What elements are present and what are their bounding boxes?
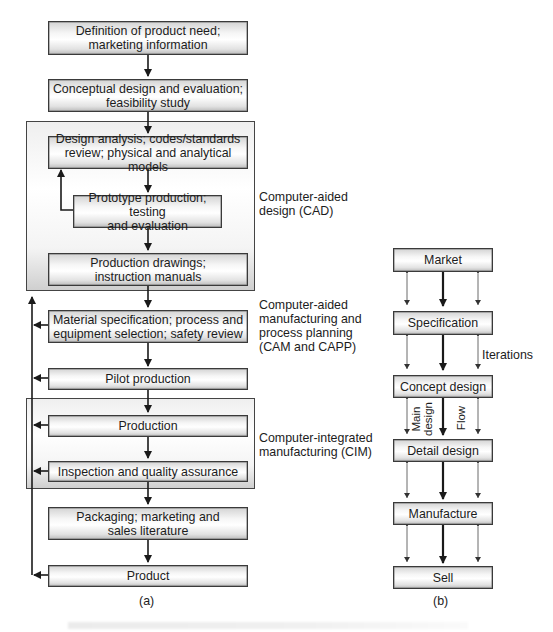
box-text: Production xyxy=(118,419,177,433)
box-text: Definition of product need; xyxy=(76,24,221,38)
box-manufacture: Manufacture xyxy=(393,502,493,525)
design-process-figure: Definition of product need;marketing inf… xyxy=(0,0,553,632)
label-line: Computer-integrated xyxy=(259,431,373,445)
main-design-label: Main design xyxy=(410,401,434,437)
box-specification: Specification xyxy=(393,311,493,335)
cropped-caption xyxy=(68,622,468,629)
box-text: Inspection and quality assurance xyxy=(58,465,238,479)
box-text: Specification xyxy=(408,316,478,330)
box-text: Conceptual design and evaluation; xyxy=(53,82,243,96)
cim-label: Computer-integrated manufacturing (CIM) xyxy=(259,431,373,459)
box-text: sales literature xyxy=(76,524,219,538)
label-line: Computer-aided xyxy=(259,298,362,312)
box-prototype: Prototype production; testingand evaluat… xyxy=(73,195,222,228)
box-text: instruction manuals xyxy=(90,270,206,284)
box-text: Production drawings; xyxy=(90,256,206,270)
label-line: design xyxy=(422,401,434,437)
box-text: equipment selection; safety review xyxy=(53,327,243,341)
box-sell: Sell xyxy=(393,566,493,589)
box-text: marketing information xyxy=(76,38,221,52)
box-pilot-production: Pilot production xyxy=(48,368,248,390)
cam-capp-label: Computer-aided manufacturing and process… xyxy=(259,298,362,354)
label-line: manufacturing and xyxy=(259,312,362,326)
box-material-specification: Material specification; process andequip… xyxy=(48,310,248,343)
box-packaging: Packaging; marketing andsales literature xyxy=(48,507,248,540)
box-text: Pilot production xyxy=(105,372,190,386)
subfigure-label-b: (b) xyxy=(433,594,448,608)
label-line: Computer-aided xyxy=(259,190,348,204)
label-line: (CAM and CAPP) xyxy=(259,340,362,354)
label-line: Main xyxy=(410,401,422,437)
label-line: design (CAD) xyxy=(259,204,348,218)
flow-label: Flow xyxy=(455,403,467,433)
iterations-label: Iterations xyxy=(482,348,533,362)
label-line: process planning xyxy=(259,326,362,340)
box-text: Packaging; marketing and xyxy=(76,510,219,524)
box-text: Sell xyxy=(433,571,454,585)
box-concept-design: Concept design xyxy=(393,375,493,398)
box-production-drawings: Production drawings;instruction manuals xyxy=(48,253,248,286)
box-conceptual-design: Conceptual design and evaluation;feasibi… xyxy=(48,79,248,112)
box-text: review; physical and analytical models xyxy=(49,146,247,174)
box-text: Material specification; process and xyxy=(53,313,243,327)
box-detail-design: Detail design xyxy=(393,439,493,462)
label-line: Flow xyxy=(455,403,467,433)
box-text: Detail design xyxy=(407,444,479,458)
box-text: Concept design xyxy=(400,380,486,394)
box-inspection: Inspection and quality assurance xyxy=(48,461,248,482)
box-design-analysis: Design analysis; codes/standardsreview; … xyxy=(48,136,248,169)
box-text: and evaluation xyxy=(74,219,221,233)
box-text: Product xyxy=(127,569,170,583)
box-text: Manufacture xyxy=(409,507,478,521)
box-text: feasibility study xyxy=(53,96,243,110)
box-product: Product xyxy=(48,565,248,587)
box-text: Prototype production; testing xyxy=(74,191,221,219)
cad-label: Computer-aided design (CAD) xyxy=(259,190,348,218)
box-text: Market xyxy=(424,253,462,267)
label-line: manufacturing (CIM) xyxy=(259,445,373,459)
box-production: Production xyxy=(48,415,248,437)
subfigure-label-a: (a) xyxy=(139,594,154,608)
box-text: Design analysis; codes/standards xyxy=(49,132,247,146)
box-product-need: Definition of product need;marketing inf… xyxy=(48,21,248,55)
box-market: Market xyxy=(393,248,493,272)
